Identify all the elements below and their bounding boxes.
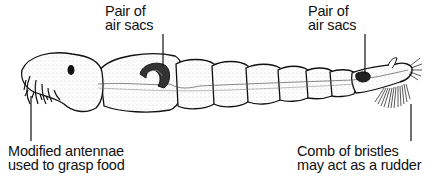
- label-line: air sacs: [105, 18, 153, 32]
- label-line: air sacs: [308, 18, 356, 32]
- label-air-sacs-rear: Pair of air sacs: [308, 4, 356, 32]
- label-line: used to grasp food: [8, 158, 125, 172]
- label-antennae: Modified antennae used to grasp food: [8, 144, 125, 172]
- label-line: Pair of: [308, 4, 356, 18]
- air-sac-rear: [356, 72, 370, 82]
- label-line: may act as a rudder: [297, 158, 421, 172]
- label-line: Modified antennae: [8, 144, 125, 158]
- label-line: Pair of: [105, 4, 153, 18]
- eye: [68, 65, 75, 75]
- larva-body: [22, 53, 413, 112]
- label-air-sacs-front: Pair of air sacs: [105, 4, 153, 32]
- label-bristles: Comb of bristles may act as a rudder: [297, 144, 421, 172]
- label-line: Comb of bristles: [297, 144, 421, 158]
